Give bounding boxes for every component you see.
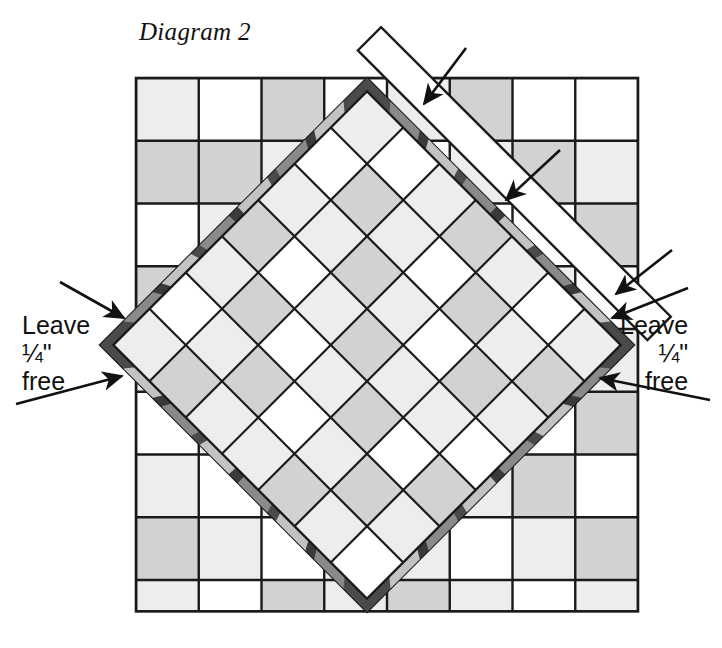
bg-cell (575, 392, 638, 455)
page-title: Diagram 2 (139, 18, 251, 46)
bg-cell (575, 455, 638, 518)
callout-left-line1: Leave (22, 311, 90, 339)
bg-cell (575, 78, 638, 141)
bg-cell (575, 517, 638, 580)
callout-right: Leave ¼" free (620, 311, 688, 395)
bg-cell (513, 455, 576, 518)
callout-left: Leave ¼" free (22, 311, 90, 395)
bg-cell (199, 517, 262, 580)
callout-left-line2: ¼" (22, 339, 90, 367)
bg-cell (513, 78, 576, 141)
callout-left-line3: free (22, 367, 90, 395)
bg-cell (136, 141, 199, 204)
bg-cell (575, 141, 638, 204)
callout-right-line3: free (620, 367, 688, 395)
bg-cell (199, 78, 262, 141)
diagram-canvas (0, 0, 722, 648)
diagram-stage: Diagram 2 Leave ¼" free Leave ¼" free (0, 0, 722, 648)
bg-cell (136, 455, 199, 518)
bg-cell (136, 517, 199, 580)
bg-cell (450, 517, 513, 580)
callout-right-line1: Leave (620, 311, 688, 339)
callout-right-line2: ¼" (620, 339, 688, 367)
bg-cell (136, 78, 199, 141)
bg-cell (513, 517, 576, 580)
